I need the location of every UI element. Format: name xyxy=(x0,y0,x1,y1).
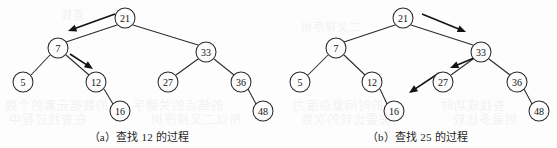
node-label-5: 5 xyxy=(298,77,303,88)
figure-a-caption: （a）查找 12 的过程 xyxy=(0,128,278,144)
figure-b-caption: （b）查找 25 的过程 xyxy=(278,128,557,144)
node-label-27: 27 xyxy=(163,77,173,88)
tree-edge-36-to-48 xyxy=(248,89,256,104)
node-label-7: 7 xyxy=(334,43,339,54)
node-label-21: 21 xyxy=(120,13,130,24)
bst-node-36: 36 xyxy=(507,72,527,92)
node-label-27: 27 xyxy=(438,77,448,88)
bst-node-12: 12 xyxy=(362,72,382,92)
bst-node-5: 5 xyxy=(290,72,310,92)
tree-edge-21-to-33 xyxy=(411,25,473,45)
tree-edge-36-to-48 xyxy=(524,89,532,104)
figure-b-bst-search-25: 2173351227361648 （b）查找 25 的过程 xyxy=(278,0,557,148)
bst-node-33: 33 xyxy=(196,42,216,62)
bst-node-27: 27 xyxy=(158,72,178,92)
tree-edge-7-to-12 xyxy=(344,55,365,75)
bst-node-12: 12 xyxy=(86,72,106,92)
tree-edge-12-to-16 xyxy=(104,89,113,104)
node-label-7: 7 xyxy=(56,43,61,54)
node-label-12: 12 xyxy=(367,77,377,88)
node-label-33: 33 xyxy=(476,47,486,58)
tree-edge-12-to-16 xyxy=(380,89,387,104)
bst-node-27: 27 xyxy=(433,72,453,92)
figure-a-tree-diagram: 2173351227361648 xyxy=(0,0,278,128)
figure-a-bst-search-12: 2173351227361648 （a）查找 12 的过程 xyxy=(0,0,278,148)
bst-node-21: 21 xyxy=(393,8,413,28)
tree-edge-7-to-5 xyxy=(31,55,50,75)
node-label-33: 33 xyxy=(201,47,211,58)
node-label-5: 5 xyxy=(21,77,26,88)
node-label-48: 48 xyxy=(534,106,544,117)
tree-edge-33-to-36 xyxy=(214,59,234,75)
tree-edge-21-to-33 xyxy=(133,25,198,45)
node-label-16: 16 xyxy=(115,106,125,117)
node-label-48: 48 xyxy=(258,106,268,117)
tree-edge-21-to-7 xyxy=(344,25,395,42)
bst-node-16: 16 xyxy=(110,101,130,121)
search-arrow-step-1 xyxy=(68,14,115,31)
node-label-12: 12 xyxy=(91,77,101,88)
node-label-36: 36 xyxy=(512,77,522,88)
node-label-16: 16 xyxy=(389,106,399,117)
bst-node-7: 7 xyxy=(326,38,346,58)
bst-node-5: 5 xyxy=(13,72,33,92)
node-label-36: 36 xyxy=(236,77,246,88)
bst-node-16: 16 xyxy=(384,101,404,121)
bst-node-21: 21 xyxy=(115,8,135,28)
tree-edge-33-to-27 xyxy=(176,59,198,75)
tree-edge-33-to-36 xyxy=(489,59,510,75)
figure-b-tree-diagram: 2173351227361648 xyxy=(278,0,557,128)
node-label-21: 21 xyxy=(398,13,408,24)
bst-node-48: 48 xyxy=(529,101,549,121)
bst-node-36: 36 xyxy=(231,72,251,92)
bst-node-7: 7 xyxy=(48,38,68,58)
bst-node-33: 33 xyxy=(471,42,491,62)
tree-edge-7-to-5 xyxy=(308,55,328,75)
search-arrow-step-1 xyxy=(422,14,466,32)
bst-node-48: 48 xyxy=(253,101,273,121)
figure-page: 的数据元素的个数的结点的关键字在查找过程中所以二叉排序树的时间复杂度为查找成功时… xyxy=(0,0,557,148)
